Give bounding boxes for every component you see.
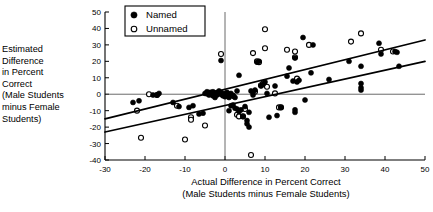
legend: NamedUnnamed xyxy=(125,6,205,36)
data-point-unnamed xyxy=(183,137,188,142)
x-tick-label: -30 xyxy=(99,165,111,174)
x-tick-label: 30 xyxy=(341,165,350,174)
data-point-named xyxy=(227,108,232,113)
y-tick-label: 0 xyxy=(97,90,102,99)
scatter-plot-figure: Estimated Difference in Percent Correct … xyxy=(0,0,433,212)
data-point-named xyxy=(359,81,364,86)
data-point-named xyxy=(395,50,400,55)
data-point-unnamed xyxy=(349,39,354,44)
data-point-named xyxy=(247,110,252,115)
data-point-named xyxy=(311,42,316,47)
x-tick-label: -20 xyxy=(139,165,151,174)
data-point-named xyxy=(151,93,156,98)
data-point-named xyxy=(303,97,308,102)
data-point-unnamed xyxy=(285,47,290,52)
data-point-named xyxy=(327,77,332,82)
data-point-unnamed xyxy=(139,135,144,140)
data-point-named xyxy=(253,88,258,93)
data-point-unnamed xyxy=(359,31,364,36)
data-point-named xyxy=(219,58,224,63)
data-point-named xyxy=(377,41,382,46)
legend-marker-named xyxy=(131,12,137,18)
x-axis-label: Actual Difference in Percent Correct (Ma… xyxy=(105,176,427,200)
data-point-named xyxy=(235,88,240,93)
y-tick-label: -20 xyxy=(89,123,101,132)
data-point-named xyxy=(247,125,252,130)
data-point-unnamed xyxy=(219,51,224,56)
x-tick-label: 0 xyxy=(223,165,228,174)
data-point-unnamed xyxy=(263,27,268,32)
y-tick-label: 50 xyxy=(92,8,101,17)
x-axis-ticks xyxy=(105,156,425,160)
y-tick-label: 20 xyxy=(92,57,101,66)
x-tick-label: -10 xyxy=(179,165,191,174)
x-tick-label: 10 xyxy=(261,165,270,174)
y-axis-ticks xyxy=(105,12,109,160)
data-point-named xyxy=(157,91,162,96)
data-point-unnamed xyxy=(251,51,256,56)
x-tick-label: 20 xyxy=(301,165,310,174)
data-point-unnamed xyxy=(293,49,298,54)
data-point-named xyxy=(359,88,364,93)
y-tick-label: 40 xyxy=(92,24,101,33)
data-point-named xyxy=(275,113,280,118)
data-point-named xyxy=(297,78,302,83)
y-tick-label: -40 xyxy=(89,156,101,165)
data-point-named xyxy=(191,103,196,108)
x-tick-label: 40 xyxy=(381,165,390,174)
x-axis-label-line2: (Male Students minus Female Students) xyxy=(105,188,427,200)
y-tick-label: -30 xyxy=(89,140,101,149)
data-point-named xyxy=(287,65,292,70)
legend-marker-unnamed xyxy=(131,26,137,32)
data-point-named xyxy=(243,104,248,109)
data-point-named xyxy=(309,70,314,75)
y-tick-label: -10 xyxy=(89,107,101,116)
data-point-named xyxy=(273,84,278,89)
data-point-named xyxy=(233,95,238,100)
data-point-named xyxy=(131,100,136,105)
data-point-named xyxy=(279,105,284,110)
legend-label: Unnamed xyxy=(146,23,188,34)
legend-label: Named xyxy=(146,9,177,20)
data-point-named xyxy=(359,64,364,69)
data-point-named xyxy=(267,115,272,120)
data-point-named xyxy=(237,73,242,78)
data-point-named xyxy=(293,107,298,112)
y-tick-label: 10 xyxy=(92,74,101,83)
x-axis-label-line1: Actual Difference in Percent Correct xyxy=(105,176,427,188)
data-point-unnamed xyxy=(189,117,194,122)
data-point-unnamed xyxy=(203,123,208,128)
data-point-named xyxy=(241,114,246,119)
data-point-named xyxy=(137,98,142,103)
data-point-named xyxy=(177,104,182,109)
data-point-named xyxy=(301,35,306,40)
x-tick-label: 50 xyxy=(421,165,430,174)
y-tick-label: 30 xyxy=(92,41,101,50)
data-point-unnamed xyxy=(263,46,268,51)
data-point-named xyxy=(293,56,298,61)
upper-regression-line xyxy=(105,40,425,119)
data-point-named xyxy=(257,59,262,64)
data-point-unnamed xyxy=(249,153,254,158)
data-point-named xyxy=(379,51,384,56)
